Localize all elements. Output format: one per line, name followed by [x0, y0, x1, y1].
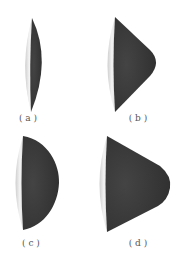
panel-b-label: ( b ) — [129, 113, 148, 123]
panel-a-label: ( a ) — [19, 113, 37, 123]
shape-c-dark-body — [22, 136, 60, 230]
shape-b-dark-body — [114, 17, 157, 112]
panel-a: ( a ) — [19, 18, 42, 123]
panel-d: ( d ) — [100, 136, 171, 248]
shape-d-dark-body — [106, 136, 171, 232]
panel-b: ( b ) — [108, 17, 157, 123]
figure-canvas: ( a ) ( b ) ( c ) ( d ) — [0, 0, 188, 256]
shape-a-dark-body — [30, 18, 42, 112]
panel-d-label: ( d ) — [129, 238, 148, 248]
panel-c-label: ( c ) — [22, 238, 40, 248]
panel-c: ( c ) — [16, 136, 60, 248]
